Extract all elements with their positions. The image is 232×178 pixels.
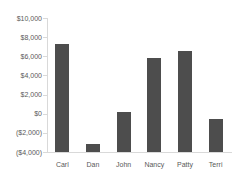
bar-carl	[55, 44, 69, 152]
bar-nancy	[147, 58, 161, 152]
bar-patty	[178, 51, 192, 152]
category-label-dan: Dan	[78, 160, 109, 169]
category-label-carl: Carl	[47, 160, 78, 169]
y-axis-tick-label--2000: ($2,000)	[2, 128, 42, 137]
category-label-patty: Patty	[170, 160, 201, 169]
category-label-john: John	[108, 160, 139, 169]
y-axis-tick-label-6000: $6,000	[2, 52, 42, 61]
category-label-nancy: Nancy	[139, 160, 170, 169]
y-axis-tick-label-10000: $10,000	[2, 14, 42, 23]
y-axis-tick-label-0: $0	[2, 109, 42, 118]
y-axis-tick-label--4000: ($4,000)	[2, 148, 42, 157]
y-axis-tick-label-4000: $4,000	[2, 71, 42, 80]
y-axis-tick-label-2000: $2,000	[2, 90, 42, 99]
x-axis-line	[43, 152, 232, 153]
bar-chart: $10,000$8,000$6,000$4,000$2,000$0($2,000…	[0, 0, 232, 178]
bar-terri	[209, 119, 223, 152]
y-axis-line	[47, 18, 48, 152]
category-label-terri: Terri	[200, 160, 231, 169]
y-axis-tick-label-8000: $8,000	[2, 33, 42, 42]
bar-dan	[86, 144, 100, 152]
bar-john	[117, 112, 131, 152]
